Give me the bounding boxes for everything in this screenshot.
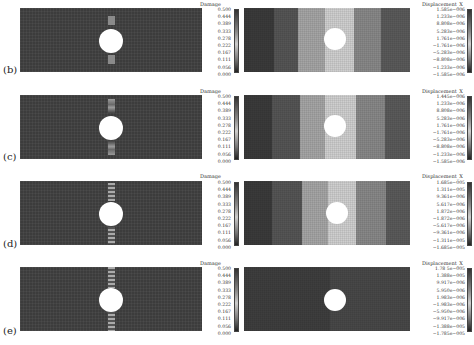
- damage-band-bottom: [108, 227, 115, 244]
- row-d: (d) Damage 0.5000.4440.3890.3330.2780.22…: [0, 172, 474, 257]
- damage-colorbar: [234, 268, 239, 332]
- damage-band-bottom: [108, 141, 115, 155]
- displacement-field: [244, 181, 410, 245]
- row-e: (e) Damage 0.5000.4440.3890.3330.2780.22…: [0, 257, 474, 342]
- hole: [99, 29, 123, 53]
- damage-colorbar-ticks: 0.5000.4440.3890.3330.2780.2220.1670.111…: [205, 267, 231, 339]
- damage-band-bottom: [108, 312, 115, 331]
- displacement-colorbar: [467, 268, 472, 332]
- damage-colorbar-ticks: 0.5000.4440.3890.3330.2780.2220.1670.111…: [205, 181, 231, 253]
- displacement-colorbar-ticks: 1.445e−0061.233e−0068.808e−0065.283e−006…: [412, 95, 465, 167]
- displacement-colorbar: [467, 9, 472, 73]
- damage-colorbar-ticks: 0.5000.4440.3890.3330.2780.2220.1670.111…: [205, 95, 231, 167]
- damage-band-top: [108, 183, 115, 201]
- damage-field: [20, 267, 202, 331]
- displacement-colorbar-ticks: 1.585e−0061.233e−0068.808e−0065.283e−006…: [412, 8, 465, 80]
- damage-colorbar: [234, 96, 239, 160]
- displacement-colorbar-ticks: 1.78 5e−0051.388e−0059.917e−0065.950e−00…: [412, 267, 465, 339]
- row-b: (b) Damage 0.5000.4440.3890.3330.2780.22…: [0, 0, 474, 85]
- displacement-colorbar: [467, 96, 472, 160]
- damage-colorbar: [234, 182, 239, 246]
- hole: [326, 202, 348, 224]
- hole: [324, 289, 346, 311]
- row-label: (c): [3, 151, 16, 162]
- displacement-field: [244, 95, 410, 159]
- displacement-colorbar-title: Displacement_X: [422, 173, 463, 179]
- damage-band-top: [108, 16, 115, 25]
- row-c: (c) Damage 0.5000.4440.3890.3330.2780.22…: [0, 87, 474, 172]
- damage-field: [20, 95, 202, 159]
- damage-field: [20, 8, 202, 72]
- hole: [99, 288, 123, 312]
- row-label: (d): [3, 238, 17, 249]
- damage-colorbar: [234, 9, 239, 73]
- damage-band-bottom: [108, 55, 115, 64]
- damage-band-top: [108, 99, 115, 113]
- damage-colorbar-ticks: 0.5000.4440.3890.3330.2780.2220.1670.111…: [205, 8, 231, 80]
- displacement-colorbar: [467, 182, 472, 246]
- displacement-field: [244, 8, 410, 72]
- damage-colorbar-title: Damage: [200, 173, 221, 179]
- damage-band-top: [108, 267, 115, 288]
- damage-field: [20, 181, 202, 245]
- hole: [324, 115, 346, 137]
- displacement-field: [244, 267, 410, 331]
- hole: [99, 116, 123, 140]
- displacement-colorbar-ticks: 1.685e−0051.311e−0059.361e−0065.617e−006…: [412, 181, 465, 253]
- hole: [99, 202, 123, 226]
- hole: [324, 28, 346, 50]
- row-label: (b): [3, 64, 17, 75]
- row-label: (e): [3, 325, 17, 336]
